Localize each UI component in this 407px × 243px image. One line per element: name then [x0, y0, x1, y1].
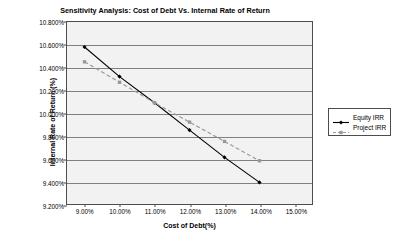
x-tick-label: 15.00%: [286, 208, 307, 215]
x-tick-mark: [84, 204, 85, 207]
y-tick-label: 9.800%: [43, 134, 64, 141]
x-tick-mark: [155, 204, 156, 207]
data-point-marker: [188, 120, 191, 123]
legend-label: Project IRR: [353, 123, 386, 132]
x-tick-mark: [119, 204, 120, 207]
y-tick-mark: [64, 206, 67, 207]
plot-area: 9.200%9.400%9.600%9.800%10.000%10.200%10…: [66, 21, 313, 205]
x-tick-label: 10.00%: [109, 208, 130, 215]
y-tick-label: 10.400%: [39, 65, 64, 72]
chart-title: Sensitivity Analysis: Cost of Debt Vs. I…: [0, 6, 330, 15]
data-point-marker: [258, 159, 261, 162]
x-tick-mark: [261, 204, 262, 207]
chart-container: Sensitivity Analysis: Cost of Debt Vs. I…: [0, 0, 407, 243]
y-tick-label: 9.400%: [43, 180, 64, 187]
x-tick-mark: [296, 204, 297, 207]
data-point-marker: [339, 130, 342, 133]
diamond-marker-icon: [332, 113, 350, 122]
data-point-marker: [118, 81, 121, 84]
data-point-marker: [223, 140, 226, 143]
series-plot: [67, 22, 312, 204]
x-tick-label: 11.00%: [145, 208, 166, 215]
y-tick-label: 10.200%: [39, 88, 64, 95]
x-tick-mark: [190, 204, 191, 207]
legend-item-1[interactable]: Equity IRR: [332, 112, 386, 122]
y-tick-label: 10.600%: [39, 42, 64, 49]
x-tick-label: 13.00%: [215, 208, 236, 215]
legend-item-2[interactable]: Project IRR: [332, 122, 386, 132]
y-tick-label: 9.600%: [43, 157, 64, 164]
series-line: [85, 47, 260, 182]
x-tick-label: 9.00%: [76, 208, 94, 215]
data-point-marker: [153, 101, 156, 104]
y-tick-label: 9.200%: [43, 203, 64, 210]
legend-label: Equity IRR: [353, 113, 384, 122]
x-tick-label: 14.00%: [250, 208, 271, 215]
x-axis-title: Cost of Debt(%): [66, 222, 313, 229]
series-line: [85, 62, 260, 161]
series-1: [82, 45, 261, 185]
y-tick-label: 10.800%: [39, 19, 64, 26]
x-tick-mark: [225, 204, 226, 207]
chart-legend: Equity IRRProject IRR: [328, 108, 391, 136]
square-marker-icon: [332, 123, 350, 132]
series-2: [83, 60, 261, 162]
data-point-marker: [83, 60, 86, 63]
x-tick-label: 12.00%: [180, 208, 201, 215]
y-tick-label: 10.000%: [39, 111, 64, 118]
